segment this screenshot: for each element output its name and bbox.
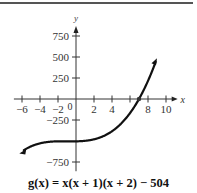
origin-label: 0 xyxy=(68,101,73,112)
x-tick-label: 8 xyxy=(145,103,151,115)
y-axis-arrow-icon xyxy=(74,26,79,33)
curve-right-arrow-icon xyxy=(152,58,158,65)
y-tick-label: −250 xyxy=(46,114,69,126)
x-tick-label: 4 xyxy=(109,103,115,115)
y-tick-label: 750 xyxy=(53,30,70,42)
y-axis-label: y xyxy=(73,13,78,23)
x-tick-label: 10 xyxy=(161,103,173,115)
x-axis-arrow-icon xyxy=(172,97,178,102)
y-tick-label: 250 xyxy=(53,72,70,84)
y-tick-label: −750 xyxy=(46,156,69,168)
function-caption: g(x) = x(x + 1)(x + 2) − 504 xyxy=(0,176,197,191)
function-graph: xy−6−4−2248100750500250−250−750 xyxy=(0,0,197,193)
curve-left-arrow-icon xyxy=(19,149,26,155)
zero-point-marker xyxy=(137,97,141,101)
x-tick-label: 2 xyxy=(91,103,97,115)
x-tick-label: −6 xyxy=(16,103,28,115)
y-tick-label: 500 xyxy=(53,51,70,63)
x-axis-label: x xyxy=(179,94,185,105)
x-tick-label: −4 xyxy=(34,103,46,115)
